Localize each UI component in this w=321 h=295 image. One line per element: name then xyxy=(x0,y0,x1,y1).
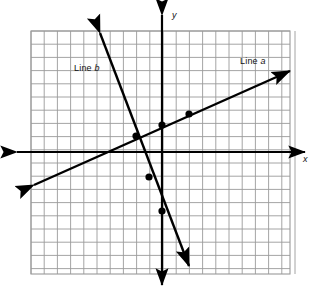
graph-figure: Line a Line b y x xyxy=(0,0,321,295)
line-a-label-name: a xyxy=(261,56,266,66)
plotted-point xyxy=(145,173,152,180)
coordinate-plane-svg xyxy=(0,0,321,295)
line-b-label: Line b xyxy=(74,63,100,73)
plotted-point xyxy=(158,121,165,128)
line-b-label-name: b xyxy=(95,63,100,73)
plotted-point xyxy=(132,132,139,139)
line-a-label: Line a xyxy=(240,56,266,66)
x-axis-label: x xyxy=(303,154,308,164)
line-a-label-prefix: Line xyxy=(240,56,258,66)
y-axis-label: y xyxy=(172,10,177,20)
plotted-point xyxy=(185,110,192,117)
line-b-label-prefix: Line xyxy=(74,63,92,73)
plotted-point xyxy=(158,207,165,214)
